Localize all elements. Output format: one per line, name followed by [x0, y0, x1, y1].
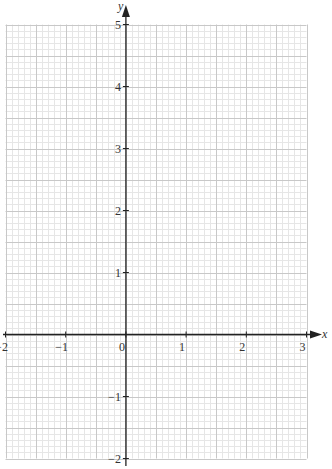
y-tick-label: 1: [115, 266, 121, 280]
tick-labels: −2−10123−2−112345: [0, 18, 306, 466]
x-tick-label: 1: [179, 340, 185, 354]
y-tick-label: 5: [115, 18, 121, 32]
y-tick-label: 2: [115, 204, 121, 218]
y-tick-label: −1: [108, 390, 121, 404]
x-axis-label: x: [321, 327, 328, 341]
x-tick-label: −1: [55, 340, 68, 354]
y-tick-label: −2: [108, 452, 121, 466]
x-tick-label: 2: [239, 340, 245, 354]
grid-major-lines: [6, 25, 308, 460]
x-tick-label: 3: [300, 340, 306, 354]
y-tick-label: 3: [115, 142, 121, 156]
x-axis-arrow-icon: [310, 331, 322, 339]
x-tick-label: 0: [119, 340, 125, 354]
x-tick-label: −2: [0, 340, 8, 354]
coordinate-grid: −2−10123−2−112345 x y: [0, 0, 332, 469]
y-axis-label: y: [117, 0, 124, 13]
y-tick-label: 4: [115, 80, 121, 94]
